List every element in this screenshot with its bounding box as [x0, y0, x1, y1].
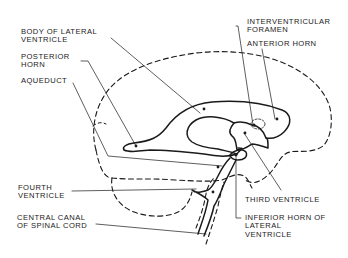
inferior-horn-outline: [230, 148, 247, 160]
label-line: AQUEDUCT: [21, 77, 67, 85]
label-posterior-horn: POSTERIOR HORN: [21, 53, 70, 70]
label-line: FORAMEN: [247, 26, 330, 34]
inner-dashed-curve: [93, 123, 106, 126]
label-line: ANTERIOR HORN: [247, 40, 317, 48]
leader-fourth-ventricle: [72, 189, 196, 191]
ventricular-system-diagram: BODY OF LATERAL VENTRICLE POSTERIOR HORN…: [0, 0, 348, 258]
aqueduct-outline: [192, 158, 236, 236]
cerebellum-outline-dashed: [112, 178, 192, 216]
leader-inferior-horn: [236, 155, 241, 218]
label-interventricular-foramen: INTERVENTRICULAR FORAMEN: [247, 18, 330, 35]
label-inferior-horn: INFERIOR HORN OF LATERAL VENTRICLE: [245, 214, 326, 239]
label-line: VENTRICLE: [245, 231, 326, 239]
leader-central-canal: [96, 224, 206, 234]
label-central-canal: CENTRAL CANAL OF SPINAL CORD: [17, 214, 87, 231]
label-line: VENTRICLE: [21, 36, 97, 44]
label-anterior-horn: ANTERIOR HORN: [247, 40, 317, 48]
label-line: OF SPINAL CORD: [17, 222, 87, 230]
label-line: VENTRICLE: [18, 192, 65, 200]
label-aqueduct: AQUEDUCT: [21, 77, 67, 85]
lateral-ventricle-outline: [123, 101, 289, 156]
third-ventricle-outline: [230, 123, 268, 150]
label-fourth-ventricle: FOURTH VENTRICLE: [18, 184, 65, 201]
label-body-of-lateral-ventricle: BODY OF LATERAL VENTRICLE: [21, 28, 97, 45]
label-third-ventricle: THIRD VENTRICLE: [245, 196, 320, 204]
label-line: HORN: [21, 61, 70, 69]
label-line: THIRD VENTRICLE: [245, 196, 320, 204]
